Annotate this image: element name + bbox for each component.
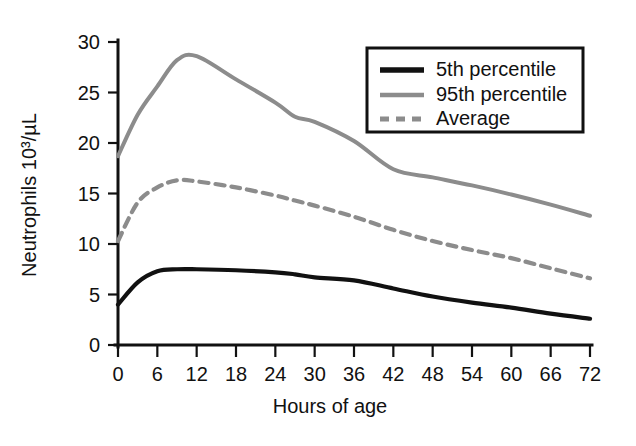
x-tick-label-66: 66: [540, 363, 562, 385]
y-axis-group: 051015202530 Neutrophils 10³/µL: [18, 31, 118, 356]
x-tick-label-72: 72: [579, 363, 601, 385]
x-tick-marks: [118, 345, 590, 357]
y-tick-label-25: 25: [78, 82, 100, 104]
x-tick-label-6: 6: [152, 363, 163, 385]
x-tick-labels: 061218243036424854606672: [112, 363, 601, 385]
y-tick-label-15: 15: [78, 183, 100, 205]
y-axis-title: Neutrophils 10³/µL: [18, 113, 40, 277]
x-tick-label-42: 42: [382, 363, 404, 385]
x-tick-label-12: 12: [186, 363, 208, 385]
neutrophils-chart: 051015202530 Neutrophils 10³/µL 06121824…: [0, 0, 636, 446]
y-tick-label-20: 20: [78, 132, 100, 154]
chart-canvas: 051015202530 Neutrophils 10³/µL 06121824…: [0, 0, 636, 446]
x-axis-group: 061218243036424854606672 Hours of age: [112, 345, 601, 417]
y-tick-label-5: 5: [89, 284, 100, 306]
series-line-5th-percentile: [118, 269, 590, 319]
chart-legend: 5th percentile95th percentileAverage: [367, 48, 583, 132]
x-tick-label-0: 0: [112, 363, 123, 385]
x-tick-label-48: 48: [422, 363, 444, 385]
x-tick-label-36: 36: [343, 363, 365, 385]
x-tick-label-30: 30: [304, 363, 326, 385]
y-tick-labels: 051015202530: [78, 31, 100, 356]
x-axis-title: Hours of age: [273, 395, 388, 417]
x-tick-label-24: 24: [264, 363, 286, 385]
y-tick-label-10: 10: [78, 233, 100, 255]
x-tick-label-60: 60: [500, 363, 522, 385]
legend-label-5th-percentile: 5th percentile: [436, 58, 556, 80]
x-tick-label-18: 18: [225, 363, 247, 385]
x-tick-label-54: 54: [461, 363, 483, 385]
legend-label-95th-percentile: 95th percentile: [436, 83, 567, 105]
y-tick-label-30: 30: [78, 31, 100, 53]
legend-label-average: Average: [436, 107, 510, 129]
y-tick-label-0: 0: [89, 334, 100, 356]
